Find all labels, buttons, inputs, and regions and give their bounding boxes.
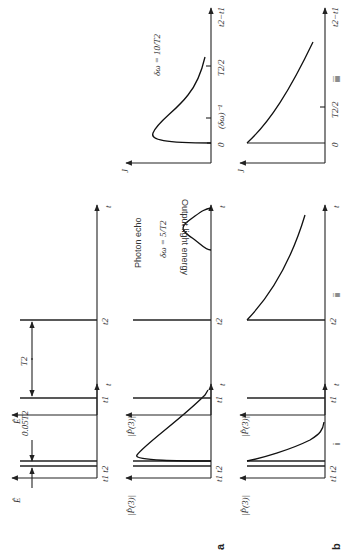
long-sep-label: T2: [19, 356, 29, 366]
J-label: J: [120, 168, 130, 173]
part-label-b: b: [330, 543, 342, 550]
t2-label: t2: [100, 317, 110, 325]
t1-label: t1: [328, 396, 338, 403]
panel-polarization-b-i: t1 t2 t |P̂(3)|: [240, 383, 341, 516]
column-label-iii: iii: [332, 76, 342, 82]
polarization-label: |P̂(3)|: [126, 416, 136, 437]
half-T2-label: T2/2: [216, 59, 226, 76]
panel-field-ii: T2 t1 t2 t Ê: [12, 205, 113, 425]
polarization-curve: [137, 390, 211, 461]
column-label-i: i: [332, 443, 342, 445]
output-energy-label: Output light energy: [180, 199, 190, 276]
t-label: t: [331, 383, 341, 386]
t2-label: t2: [328, 317, 338, 325]
dw10-label: δω = 10/T2: [152, 33, 162, 76]
t2-label: t2: [214, 317, 224, 325]
panel-field-i: 0.05T2 t1 t2 t Ê: [12, 383, 113, 504]
field-label: Ê: [12, 497, 22, 504]
t-label: t: [103, 383, 113, 386]
panel-polarization-a-i: t1 t2 t |P̂(3)|: [126, 383, 227, 516]
panel-output-b-iii: 0 T2/2 t2−t1 J: [236, 7, 340, 173]
field-label: Ê: [12, 418, 22, 425]
t1t2-label: t1 t2: [328, 465, 338, 482]
photon-echo-label: Photon echo: [133, 217, 143, 268]
polarization-curve: [247, 215, 305, 320]
t1-label: t1: [100, 396, 110, 403]
t-label: t: [217, 205, 227, 208]
t1-label: t1: [214, 396, 224, 403]
photon-echo-figure: 0.05T2 t1 t2 t Ê T2 t1 t2 t Ê t1 t2 t |P…: [0, 0, 358, 553]
inv-dw-label: (δω)⁻¹: [216, 104, 226, 129]
t-label: t: [331, 205, 341, 208]
delay-label: t2−t1: [216, 7, 226, 27]
column-label-ii: ii: [332, 293, 342, 297]
panel-polarization-a-ii: Photon echo δω = 5/T2 t1 t2 t |P̂(3)|: [126, 205, 227, 437]
polarization-label: |P̂(3)|: [126, 495, 136, 516]
dw5-label: δω = 5/T2: [158, 220, 168, 258]
delay-label: t2−t1: [330, 7, 340, 27]
t1t2-label: t1 t2: [214, 465, 224, 482]
polarization-label: |P̂(3)|: [240, 495, 250, 516]
zero-label: 0: [216, 142, 226, 147]
t-label: t: [217, 383, 227, 386]
polarization-curve: [247, 422, 324, 461]
output-curve: [247, 42, 313, 143]
polarization-label: |P̂(3)|: [240, 416, 250, 437]
t-label: t: [103, 205, 113, 208]
J-label: J: [236, 168, 246, 173]
part-label-a: a: [214, 543, 226, 550]
t1t2-label: t1 t2: [100, 465, 110, 482]
zero-label: 0: [330, 142, 340, 147]
half-T2-label: T2/2: [330, 101, 340, 118]
panel-polarization-b-ii: t1 t2 t |P̂(3)|: [240, 205, 341, 437]
